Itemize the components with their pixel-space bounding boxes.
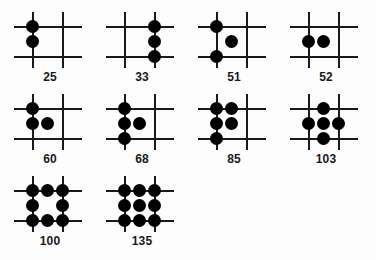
grid-line-horizontal-bottom bbox=[106, 56, 174, 58]
lattice-dot bbox=[118, 184, 131, 197]
lattice-dot bbox=[26, 20, 39, 33]
grid-line-vertical-right bbox=[62, 94, 64, 150]
lattice-dot bbox=[133, 214, 146, 227]
grid-line-horizontal-bottom bbox=[14, 56, 82, 58]
panel-label: 100 bbox=[8, 234, 114, 248]
lattice-dot bbox=[26, 35, 39, 48]
figure-row: 100 135 bbox=[0, 172, 376, 254]
grid-line-vertical-right bbox=[154, 94, 156, 150]
figure-panel-60: 60 bbox=[8, 90, 92, 172]
lattice-dot bbox=[210, 102, 223, 115]
grid-line-horizontal-bottom bbox=[14, 138, 82, 140]
lattice-dot bbox=[118, 214, 131, 227]
grid-line-vertical-right bbox=[246, 94, 248, 150]
lattice-dot bbox=[26, 199, 39, 212]
figure-sheet: 25 33 51 bbox=[0, 0, 376, 260]
lattice-grid bbox=[14, 12, 82, 68]
lattice-dot bbox=[41, 184, 54, 197]
lattice-dot bbox=[210, 50, 223, 63]
lattice-dot bbox=[26, 184, 39, 197]
lattice-dot bbox=[317, 35, 330, 48]
figure-panel-100: 100 bbox=[8, 172, 92, 254]
grid-line-horizontal-top bbox=[14, 26, 82, 28]
lattice-grid bbox=[14, 176, 82, 232]
lattice-dot bbox=[225, 117, 238, 130]
lattice-dot bbox=[56, 214, 69, 227]
figure-panel-85: 85 bbox=[192, 90, 276, 172]
lattice-dot bbox=[118, 199, 131, 212]
lattice-dot bbox=[210, 117, 223, 130]
panel-label: 51 bbox=[192, 70, 284, 84]
panel-label: 25 bbox=[8, 70, 114, 84]
grid-line-horizontal-top bbox=[290, 26, 358, 28]
lattice-dot bbox=[210, 20, 223, 33]
grid-line-horizontal-top bbox=[198, 26, 266, 28]
figure-panel-25: 25 bbox=[8, 8, 92, 90]
grid-line-horizontal-bottom bbox=[198, 56, 266, 58]
panel-label: 33 bbox=[100, 70, 192, 84]
lattice-dot bbox=[317, 132, 330, 145]
lattice-dot bbox=[225, 102, 238, 115]
lattice-dot bbox=[133, 199, 146, 212]
grid-line-horizontal-top bbox=[106, 26, 174, 28]
lattice-grid bbox=[106, 94, 174, 150]
grid-line-horizontal-bottom bbox=[106, 138, 174, 140]
grid-line-vertical-right bbox=[62, 12, 64, 68]
lattice-dot bbox=[26, 214, 39, 227]
figure-panel-51: 51 bbox=[192, 8, 276, 90]
figure-row: 25 33 51 bbox=[0, 8, 376, 90]
lattice-dot bbox=[118, 102, 131, 115]
lattice-grid bbox=[106, 176, 174, 232]
lattice-dot bbox=[148, 50, 161, 63]
figure-panel-135: 135 bbox=[100, 172, 184, 254]
lattice-dot bbox=[332, 117, 345, 130]
figure-row: 60 68 bbox=[0, 90, 376, 172]
lattice-grid bbox=[290, 12, 358, 68]
lattice-dot bbox=[302, 117, 315, 130]
lattice-dot bbox=[225, 35, 238, 48]
lattice-dot bbox=[41, 117, 54, 130]
lattice-dot bbox=[317, 117, 330, 130]
panel-label: 85 bbox=[192, 152, 284, 166]
lattice-grid bbox=[14, 94, 82, 150]
lattice-dot bbox=[56, 199, 69, 212]
lattice-dot bbox=[26, 102, 39, 115]
grid-line-horizontal-top bbox=[106, 108, 174, 110]
lattice-dot bbox=[317, 102, 330, 115]
lattice-dot bbox=[148, 35, 161, 48]
figure-panel-52: 52 bbox=[284, 8, 368, 90]
lattice-grid bbox=[106, 12, 174, 68]
figure-panel-103: 103 bbox=[284, 90, 368, 172]
lattice-dot bbox=[302, 35, 315, 48]
lattice-dot bbox=[118, 117, 131, 130]
lattice-dot bbox=[133, 184, 146, 197]
panel-label: 68 bbox=[100, 152, 192, 166]
panel-label: 135 bbox=[100, 234, 192, 248]
lattice-dot bbox=[148, 199, 161, 212]
figure-panel-68: 68 bbox=[100, 90, 184, 172]
panel-label: 60 bbox=[8, 152, 114, 166]
lattice-dot bbox=[148, 214, 161, 227]
panel-label: 52 bbox=[284, 70, 368, 84]
grid-line-vertical-right bbox=[338, 12, 340, 68]
grid-line-vertical-left bbox=[124, 12, 126, 68]
grid-line-vertical-right bbox=[246, 12, 248, 68]
lattice-dot bbox=[26, 117, 39, 130]
lattice-dot bbox=[41, 214, 54, 227]
lattice-dot bbox=[56, 184, 69, 197]
lattice-grid bbox=[290, 94, 358, 150]
panel-label: 103 bbox=[284, 152, 376, 166]
grid-line-horizontal-top bbox=[14, 108, 82, 110]
lattice-dot bbox=[148, 184, 161, 197]
figure-panel-33: 33 bbox=[100, 8, 184, 90]
grid-line-horizontal-bottom bbox=[290, 56, 358, 58]
lattice-dot bbox=[210, 132, 223, 145]
lattice-grid bbox=[198, 94, 266, 150]
lattice-dot bbox=[148, 20, 161, 33]
lattice-grid bbox=[198, 12, 266, 68]
grid-line-horizontal-bottom bbox=[198, 138, 266, 140]
lattice-dot bbox=[133, 117, 146, 130]
lattice-dot bbox=[118, 132, 131, 145]
